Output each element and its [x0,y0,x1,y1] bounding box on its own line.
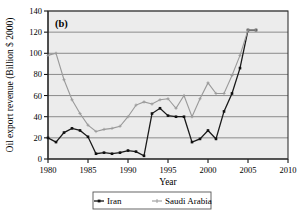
x-tick-label-2000: 2000 [200,165,217,175]
y-tick-label-80: 80 [34,69,43,79]
legend-swatch-marker [98,200,101,203]
y-axis-title: Oil export revenue (Billion $ 2000) [5,18,16,153]
x-tick-label-1990: 1990 [120,165,137,175]
panel-label: (b) [55,18,68,30]
y-tick-label-140: 140 [29,6,42,16]
data-point [215,138,218,141]
data-point [95,152,98,155]
data-point [199,138,202,141]
data-point [207,129,210,132]
data-point [71,127,74,130]
y-tick-label-100: 100 [29,48,42,58]
y-tick-label-60: 60 [34,91,43,101]
data-point [103,151,106,154]
x-tick-label-1995: 1995 [160,165,177,175]
data-point [151,112,154,115]
data-point [119,151,122,154]
legend-label: Saudi Arabia [165,196,212,206]
data-point [239,67,242,70]
x-tick-label-2010: 2010 [280,165,297,175]
x-axis-title: Year [159,177,177,187]
data-point [47,137,50,140]
data-point [167,114,170,117]
data-point [55,141,58,144]
data-point [127,149,130,152]
data-point [159,107,162,110]
plot-area-background [48,11,288,159]
x-tick-label-1980: 1980 [40,165,57,175]
chart-figure: 020406080100120140 198019851990199520002… [0,0,301,213]
legend-label: Iran [107,196,122,206]
data-point [79,129,82,132]
data-point [111,152,114,155]
data-point [183,115,186,118]
chart-legend: IranSaudi Arabia [93,192,212,209]
y-tick-label-120: 120 [29,27,42,37]
chart-svg: 020406080100120140 198019851990199520002… [0,0,301,213]
data-point [223,110,226,113]
x-tick-label-2005: 2005 [240,165,257,175]
y-tick-label-40: 40 [34,112,43,122]
x-tick-label-1985: 1985 [80,165,97,175]
data-point [135,150,138,153]
data-point [143,155,146,158]
data-point [231,92,234,95]
data-point [87,136,90,139]
y-tick-label-20: 20 [34,133,43,143]
data-point [191,141,194,144]
data-point [175,115,178,118]
data-point [63,131,66,134]
y-tick-label-0: 0 [38,154,42,164]
